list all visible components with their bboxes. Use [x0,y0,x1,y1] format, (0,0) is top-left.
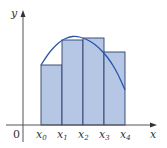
tick-label: x1 [57,128,68,142]
tick-label: x3 [99,128,110,142]
y-axis-arrow-icon [21,10,26,17]
rectangle [83,38,104,125]
rectangles [41,38,125,125]
x-axis-label: x [150,128,157,141]
tick-label: x2 [78,128,89,142]
rectangle [41,65,62,125]
tick-label: x0 [36,128,47,142]
riemann-sum-diagram: y x 0 x0x1x2x3x4 [0,0,167,148]
x-axis-arrow-icon [150,123,157,128]
tick-labels: x0x1x2x3x4 [36,128,131,142]
rectangle [104,52,125,125]
y-axis-label: y [10,7,18,20]
origin-label: 0 [13,128,20,141]
rectangle [62,40,83,125]
tick-label: x4 [120,128,131,142]
